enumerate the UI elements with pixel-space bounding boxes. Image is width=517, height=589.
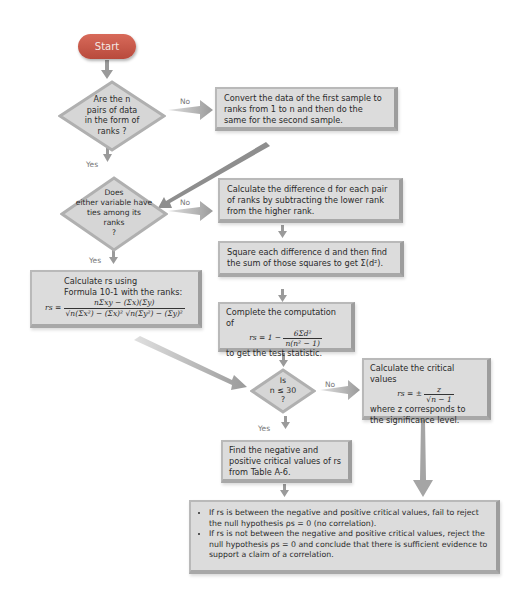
critical-denominator: √n − 1 — [424, 395, 453, 404]
decision3-text-3: ? — [250, 395, 316, 405]
decision2-text: Does — [60, 188, 168, 198]
compute-test-statistic-box: Complete the computation of rs = 1 − 6Σd… — [218, 302, 355, 352]
critical-lhs: rs = ± — [397, 389, 422, 398]
decision-ties: Does either variable have ties among its… — [60, 176, 168, 252]
conclusion-bullet-fail-to-reject: If rs is between the negative and positi… — [209, 508, 488, 529]
critical-line1: Calculate the critical values — [370, 363, 481, 385]
square-sum-text: Square each difference d and then find t… — [227, 247, 387, 268]
decision2-text-5: ? — [60, 228, 168, 238]
compute-line3: to get the test statistic. — [226, 348, 345, 359]
decision1-no-label: No — [180, 97, 190, 106]
critical-line3: where z corresponds to the significance … — [370, 404, 481, 426]
decision3-text-2: n ≤ 30 — [250, 386, 316, 396]
decision-n-30: Is n ≤ 30 ? — [250, 368, 316, 414]
decision1-text-4: ranks ? — [58, 127, 166, 138]
formula-numerator: nΣxy − (Σx)(Σy) — [64, 298, 185, 309]
compute-numerator: 6Σd² — [283, 329, 321, 339]
conclusion-box: If rs is between the negative and positi… — [189, 500, 500, 574]
start-label: Start — [95, 41, 119, 52]
convert-ranks-box: Convert the data of the first sample to … — [215, 87, 398, 131]
decision1-text-2: pairs of data — [58, 106, 166, 117]
difference-box: Calculate the difference d for each pair… — [218, 178, 403, 223]
critical-values-calc-box: Calculate the critical values rs = ± z√n… — [362, 358, 491, 420]
critical-numerator: z — [424, 385, 453, 395]
decision2-text-3: ties among its — [60, 208, 168, 218]
decision1-text-3: in the form of — [58, 116, 166, 127]
formula-line1: Calculate rs using — [36, 276, 194, 287]
table-a6-text: Find the negative and positive critical … — [229, 445, 341, 477]
start-terminal: Start — [78, 34, 136, 59]
table-a6-box: Find the negative and positive critical … — [221, 440, 352, 483]
formula-lhs: rs = — [45, 303, 61, 312]
decision1-yes-label: Yes — [86, 160, 98, 169]
compute-lhs: rs = 1 − — [249, 333, 281, 342]
decision3-text: Is — [250, 376, 316, 386]
decision3-yes-label: Yes — [258, 424, 270, 433]
square-sum-box: Square each difference d and then find t… — [218, 241, 404, 277]
formula-denominator: √n(Σx²) − (Σx)² √n(Σy²) − (Σy)² — [64, 309, 185, 319]
formula-10-1-box: Calculate rs using Formula 10-1 with the… — [30, 270, 202, 328]
difference-text: Calculate the difference d for each pair… — [227, 184, 387, 216]
decision-ranks-form: Are the n pairs of data in the form of r… — [58, 80, 166, 152]
decision2-no-label: No — [180, 198, 190, 207]
decision3-no-label: No — [325, 380, 335, 389]
decision1-text: Are the n — [58, 95, 166, 106]
conclusion-bullet-reject: If rs is not between the negative and po… — [209, 529, 488, 561]
convert-ranks-text: Convert the data of the first sample to … — [224, 93, 382, 125]
decision2-yes-label: Yes — [89, 256, 101, 265]
decision2-text-4: ranks — [60, 218, 168, 228]
compute-denominator: n(n² − 1) — [283, 339, 321, 348]
formula-line2: Formula 10-1 with the ranks: — [36, 287, 194, 298]
decision2-text-2: either variable have — [60, 198, 168, 208]
compute-line1: Complete the computation of — [226, 307, 345, 329]
